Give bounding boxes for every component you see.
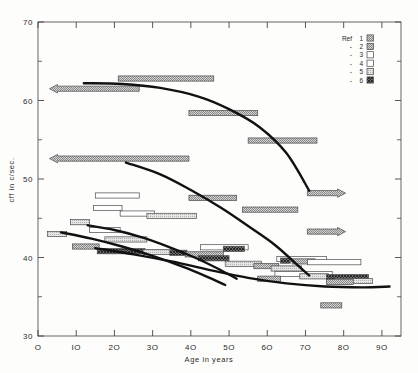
- x-tick-label: 7O: [300, 343, 312, 352]
- legend-swatch: [367, 52, 373, 58]
- x-tick-label: 4O: [185, 343, 197, 352]
- data-bar: [223, 246, 244, 251]
- x-tick-label: O: [35, 343, 42, 352]
- legend-swatch: [367, 77, 373, 83]
- bar-rect: [147, 213, 197, 218]
- legend-swatch: [367, 43, 373, 49]
- plot-border: [38, 22, 401, 336]
- y-tick-label: 60: [23, 97, 33, 106]
- x-axis-title: Age in years: [185, 355, 234, 364]
- bar-rect: [70, 220, 89, 225]
- trend-curve: [84, 83, 309, 191]
- legend-item-label: 5: [359, 68, 363, 75]
- legend: Ref1-2-3-4-5-6: [342, 35, 374, 84]
- data-bar: [118, 76, 214, 81]
- data-bar: [307, 260, 360, 265]
- data-bar: [300, 274, 329, 279]
- bar-rect: [321, 303, 342, 308]
- legend-item-label: 2: [359, 43, 363, 50]
- data-bar: [49, 85, 139, 93]
- legend-item-label: 6: [359, 77, 363, 84]
- data-bar: [95, 193, 139, 198]
- data-bar: [147, 213, 197, 218]
- chart-figure: 3040506070 OIO2O3O4O5O6O7O8O9O Ref1-2-3-…: [0, 0, 418, 373]
- x-tick-label: 8O: [338, 343, 350, 352]
- x-tick-label: IO: [71, 343, 80, 352]
- x-tick-label: 5O: [223, 343, 235, 352]
- data-bar: [242, 207, 297, 212]
- bar-rect: [223, 246, 244, 251]
- bar-rect: [93, 205, 122, 210]
- y-tick-label: 70: [23, 18, 33, 27]
- bar-arrow-right: [307, 227, 345, 235]
- legend-item-label: 4: [359, 60, 363, 67]
- y-tick-label: 40: [23, 254, 33, 263]
- legend-item-label: 3: [359, 51, 363, 58]
- x-tick-label: 3O: [147, 343, 159, 352]
- data-bar: [321, 303, 342, 308]
- x-tick-label: 9O: [376, 343, 388, 352]
- bar-rect: [281, 258, 291, 263]
- legend-prefix: -: [350, 68, 352, 75]
- legend-prefix: -: [350, 77, 352, 84]
- bar-rect: [95, 193, 139, 198]
- data-bar: [248, 138, 317, 143]
- legend-prefix: -: [350, 60, 352, 67]
- y-axis: 3040506070: [23, 18, 401, 341]
- x-tick-label: 6O: [261, 343, 273, 352]
- x-tick-label: 2O: [109, 343, 121, 352]
- legend-prefix: -: [350, 51, 352, 58]
- bar-rect: [300, 274, 329, 279]
- legend-item-label: 1: [359, 35, 363, 42]
- bar-rect: [248, 138, 317, 143]
- legend-swatch: [367, 69, 373, 75]
- bar-rect: [326, 279, 353, 284]
- bar-rect: [189, 195, 237, 200]
- data-bar: [307, 189, 345, 197]
- bar-rect: [118, 76, 214, 81]
- bar-rect: [271, 266, 302, 271]
- y-tick-label: 30: [23, 332, 33, 341]
- bar-arrow-left: [49, 85, 139, 93]
- plot-frame: [38, 22, 401, 336]
- y-tick-label: 50: [23, 175, 33, 184]
- legend-prefix: -: [350, 43, 352, 50]
- bar-rect: [307, 260, 360, 265]
- data-bar: [326, 279, 353, 284]
- data-bar: [93, 205, 122, 210]
- data-bar: [307, 227, 345, 235]
- data-bar: [189, 110, 258, 115]
- bar-arrow-right: [307, 189, 345, 197]
- data-bar: [49, 154, 188, 162]
- bar-rect: [242, 207, 297, 212]
- y-axis-title: cff in c/sec.: [7, 157, 16, 202]
- data-bar: [281, 258, 291, 263]
- legend-swatch: [367, 60, 373, 66]
- data-bar: [70, 220, 89, 225]
- chart-canvas: 3040506070 OIO2O3O4O5O6O7O8O9O Ref1-2-3-…: [0, 0, 418, 373]
- bar-arrow-left: [49, 154, 188, 162]
- data-bars-layer: [48, 76, 373, 308]
- legend-swatch: [367, 35, 373, 41]
- legend-prefix: Ref: [342, 35, 352, 42]
- data-bar: [271, 266, 302, 271]
- data-bar: [189, 195, 237, 200]
- bar-rect: [189, 110, 258, 115]
